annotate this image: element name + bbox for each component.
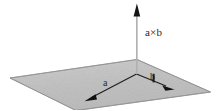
vector-diagram-canvas — [0, 0, 223, 110]
vector-diagram-figure: a×b a b — [0, 0, 223, 110]
vector-b-label: b — [150, 72, 155, 82]
shaded-plane-polygon — [10, 60, 211, 111]
vector-cross-label: a×b — [145, 27, 162, 38]
vector-cross-arrowhead — [134, 4, 141, 17]
vector-a-label: a — [103, 78, 107, 88]
plane-group — [10, 60, 211, 111]
